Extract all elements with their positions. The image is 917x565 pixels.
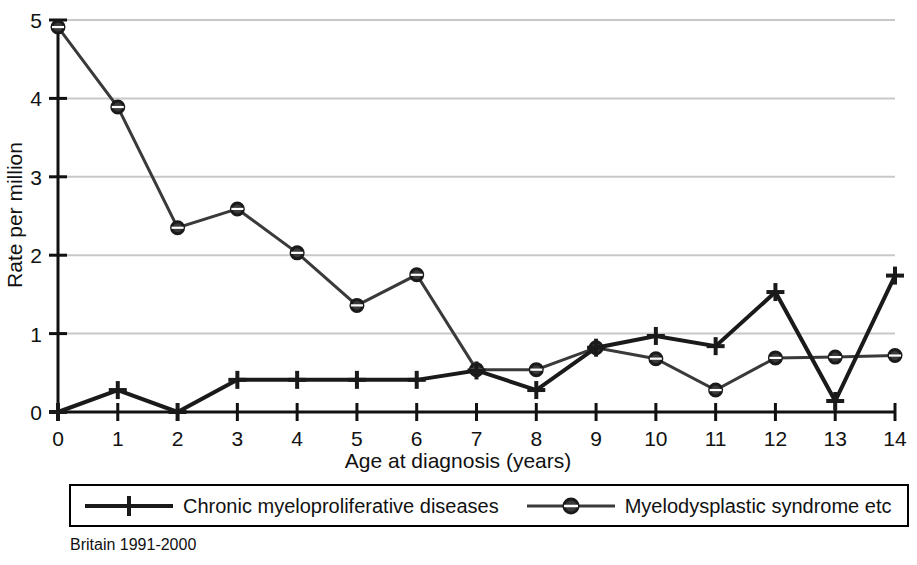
x-axis-title: Age at diagnosis (years) xyxy=(345,450,571,471)
legend-entry-chronic-myeloproliferative: Chronic myeloproliferative diseases xyxy=(83,486,499,525)
x-tick-label-4: 4 xyxy=(291,428,303,449)
x-tick-label-14: 14 xyxy=(883,428,906,449)
x-tick-label-8: 8 xyxy=(530,428,542,449)
series-chronic-myeloproliferative xyxy=(49,267,904,421)
x-tick-label-2: 2 xyxy=(172,428,184,449)
x-tick-label-1: 1 xyxy=(112,428,124,449)
chart-figure: 012345 01234567891011121314 Rate per mil… xyxy=(0,0,917,565)
x-tick-label-6: 6 xyxy=(411,428,423,449)
circle-marker-icon xyxy=(525,494,617,518)
legend-entry-myelodysplastic: Myelodysplastic syndrome etc xyxy=(525,486,892,525)
series-layer xyxy=(49,21,904,421)
x-tick-label-5: 5 xyxy=(351,428,363,449)
axis-lines xyxy=(58,20,895,412)
gridlines xyxy=(58,20,895,334)
legend-label-chronic-myeloproliferative: Chronic myeloproliferative diseases xyxy=(183,496,499,516)
chart-legend: Chronic myeloproliferative diseases Myel… xyxy=(69,484,909,527)
plus-marker-icon xyxy=(83,494,175,518)
series-myelodysplastic xyxy=(52,21,901,396)
x-tick-label-9: 9 xyxy=(590,428,602,449)
line-chart-plot xyxy=(0,0,917,565)
x-tick-label-11: 11 xyxy=(705,428,727,449)
x-tick-label-12: 12 xyxy=(764,428,787,449)
y-tick-label-0: 0 xyxy=(14,402,42,423)
x-tick-label-10: 10 xyxy=(644,428,667,449)
legend-label-myelodysplastic: Myelodysplastic syndrome etc xyxy=(625,496,892,516)
x-tick-label-13: 13 xyxy=(824,428,847,449)
x-tick-label-7: 7 xyxy=(471,428,483,449)
y-axis-title: Rate per million xyxy=(4,85,25,345)
x-tick-label-3: 3 xyxy=(232,428,244,449)
x-tick-label-0: 0 xyxy=(52,428,64,449)
y-tick-label-5: 5 xyxy=(14,10,42,31)
chart-caption: Britain 1991-2000 xyxy=(70,537,196,553)
